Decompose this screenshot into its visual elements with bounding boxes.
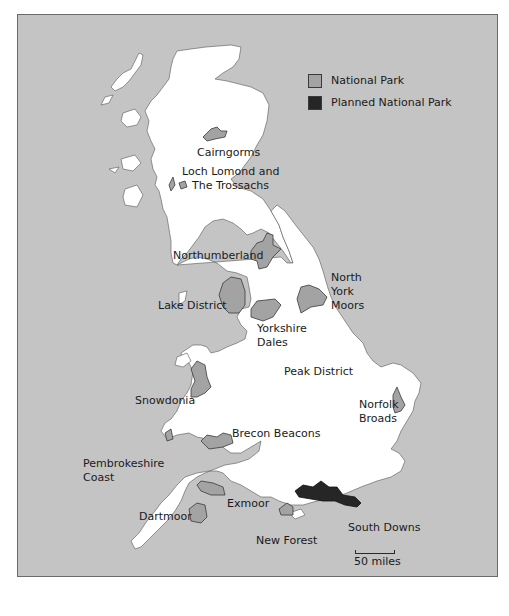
label-brecon-beacons: Brecon Beacons <box>232 427 320 441</box>
label-peak-district: Peak District <box>284 365 353 379</box>
park-exmoor <box>197 481 225 495</box>
label-loch-lomond-2: The Trossachs <box>192 179 269 193</box>
label-dartmoor: Dartmoor <box>139 510 192 524</box>
label-snowdonia: Snowdonia <box>135 394 195 408</box>
legend-item-planned-park: Planned National Park <box>308 94 452 111</box>
islay-island <box>123 185 143 207</box>
west-isles-island <box>101 95 113 105</box>
small-isle <box>109 167 119 173</box>
label-pembrokeshire-2: Coast <box>83 471 114 485</box>
label-exmoor: Exmoor <box>227 497 269 511</box>
legend-label: Planned National Park <box>331 96 452 109</box>
mull-island <box>121 155 141 171</box>
label-northumberland: Northumberland <box>173 249 263 263</box>
map-frame: National Park Planned National Park Cair… <box>17 14 498 577</box>
legend-label: National Park <box>331 74 404 87</box>
label-north-york-moors-2: York <box>331 285 354 299</box>
national-park-swatch <box>308 74 322 88</box>
legend-item-national-park: National Park <box>308 72 452 89</box>
scale-bar: 50 miles <box>355 550 401 568</box>
label-norfolk-broads-1: Norfolk <box>359 398 399 412</box>
label-north-york-moors-1: North <box>331 271 362 285</box>
label-pembrokeshire-1: Pembrokeshire <box>83 457 164 471</box>
scale-label: 50 miles <box>354 555 401 568</box>
label-north-york-moors-3: Moors <box>331 299 364 313</box>
label-loch-lomond: Loch Lomond and <box>182 165 279 179</box>
label-new-forest: New Forest <box>256 534 317 548</box>
label-yorkshire-dales-2: Dales <box>257 336 288 350</box>
scale-line <box>355 550 395 554</box>
label-lake-district: Lake District <box>158 299 227 313</box>
outer-hebrides-island <box>111 53 143 91</box>
skye-island <box>121 109 141 127</box>
planned-park-swatch <box>308 96 322 110</box>
park-loch-lomond-b <box>179 181 187 189</box>
label-south-downs: South Downs <box>348 521 420 535</box>
label-cairngorms: Cairngorms <box>197 146 260 160</box>
label-norfolk-broads-2: Broads <box>359 412 397 426</box>
label-yorkshire-dales-1: Yorkshire <box>257 322 307 336</box>
map-legend: National Park Planned National Park <box>308 72 452 116</box>
